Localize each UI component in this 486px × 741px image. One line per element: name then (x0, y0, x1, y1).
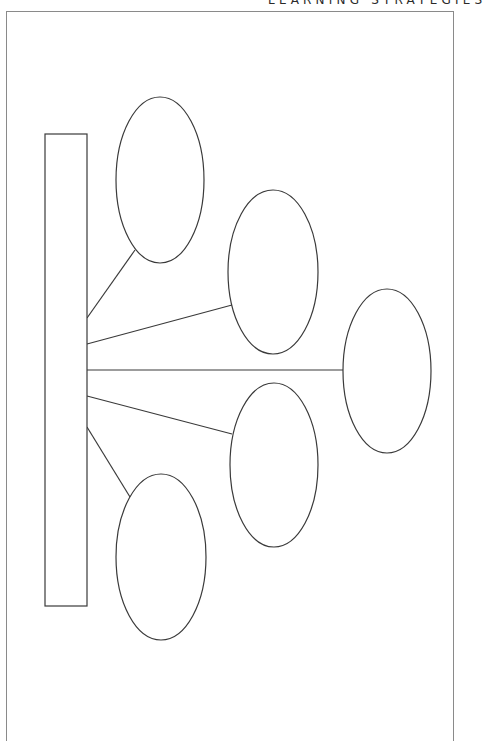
detail-ellipse-2[interactable] (228, 190, 318, 354)
connector-line-4 (87, 396, 232, 434)
detail-ellipse-3[interactable] (343, 289, 431, 453)
detail-ellipse-1[interactable] (116, 97, 204, 263)
connector-line-5 (87, 427, 130, 497)
detail-ellipse-5[interactable] (116, 474, 206, 640)
main-idea-box[interactable] (45, 134, 87, 606)
connector-line-2 (87, 305, 232, 344)
detail-ellipses (116, 97, 431, 640)
connector-line-1 (87, 250, 135, 318)
detail-ellipse-4[interactable] (230, 383, 318, 547)
